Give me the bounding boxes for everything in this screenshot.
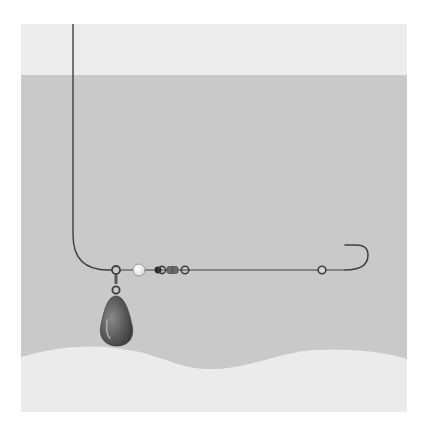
bead-light bbox=[133, 264, 145, 276]
fishing-rig-diagram bbox=[0, 0, 433, 433]
air-band bbox=[21, 24, 407, 75]
sinker-link bbox=[115, 275, 118, 284]
ring-hook bbox=[318, 266, 326, 274]
